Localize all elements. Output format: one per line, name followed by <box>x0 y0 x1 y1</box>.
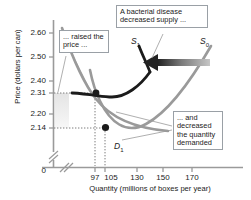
leader-price-a <box>73 56 90 90</box>
xtick-label-130: 130 <box>124 173 150 182</box>
ytick-label-0: 0 <box>12 166 46 175</box>
xtick-label-150: 150 <box>150 173 176 182</box>
x-axis-title: Quantity (millions of boxes per year) <box>52 184 248 193</box>
ytick-label-214: 2.14 <box>12 123 46 132</box>
supply-demand-chart: 2.60 2.50 2.40 2.31 2.20 2.14 0 97 105 1… <box>0 0 251 200</box>
curve-label-s0-sub: 0 <box>206 42 209 48</box>
curve-label-s1: S1 <box>131 36 140 48</box>
xtick-label-170: 170 <box>179 173 205 182</box>
equilibrium-point-new <box>93 90 100 97</box>
annotation-supply-shift: A bacterial disease decreased supply ... <box>116 5 208 28</box>
price-change-shade <box>55 93 69 128</box>
supply-curve-s1-upper <box>139 46 150 72</box>
equilibrium-point-old <box>102 124 109 131</box>
leader-price-b <box>58 56 66 92</box>
curve-label-d1: D1 <box>114 141 123 153</box>
curve-label-s0: S0 <box>200 36 209 48</box>
annotation-quantity-decreased: ... and decreased the quantity demanded <box>173 111 223 150</box>
curve-label-s1-sub: 1 <box>137 42 140 48</box>
annotation-price-raised: ... raised the price ... <box>59 30 109 53</box>
curve-label-d1-sub: 1 <box>120 147 123 153</box>
y-axis-title: Price (dollars per can) <box>13 12 22 122</box>
xtick-label-105: 105 <box>98 173 124 182</box>
leader-demand-b <box>122 130 172 140</box>
supply-curve-s1 <box>72 72 150 97</box>
